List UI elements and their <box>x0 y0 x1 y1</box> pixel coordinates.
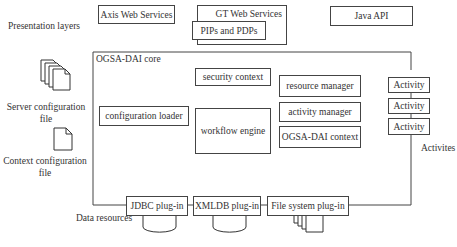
jdbc-plugin-box: JDBC plug-in <box>126 196 188 216</box>
security-context-box: security context <box>195 68 271 86</box>
context-config-file-icon <box>54 128 72 150</box>
java-api-box: Java API <box>330 6 413 26</box>
presentation-layers-label: Presentation layers <box>8 21 80 31</box>
pips-pdps-box: PIPs and PDPs <box>192 21 266 40</box>
axis-web-services-box: Axis Web Services <box>98 5 175 24</box>
file-system-plugin-box: File system plug-in <box>267 196 349 216</box>
activity-box: Activity <box>388 118 430 135</box>
ogsa-dai-context-box: OGSA-DAI context <box>279 126 361 148</box>
activity-box: Activity <box>388 77 430 93</box>
configuration-loader-box: configuration loader <box>99 106 189 126</box>
activity-box: Activity <box>388 98 430 114</box>
data-resources-label: Data resources <box>76 213 132 223</box>
context-config-label: Context configuration file <box>1 155 89 179</box>
workflow-engine-box: workflow engine <box>195 108 271 154</box>
activites-label: Activites <box>421 143 455 153</box>
server-config-label: Server configuration file <box>4 101 88 125</box>
xmldb-plugin-box: XMLDB plug-in <box>193 196 261 216</box>
server-config-files-icon <box>41 60 70 90</box>
resource-manager-box: resource manager <box>279 75 361 97</box>
activity-manager-box: activity manager <box>279 102 361 122</box>
ogsa-dai-core-title: OGSA-DAI core <box>96 54 161 64</box>
